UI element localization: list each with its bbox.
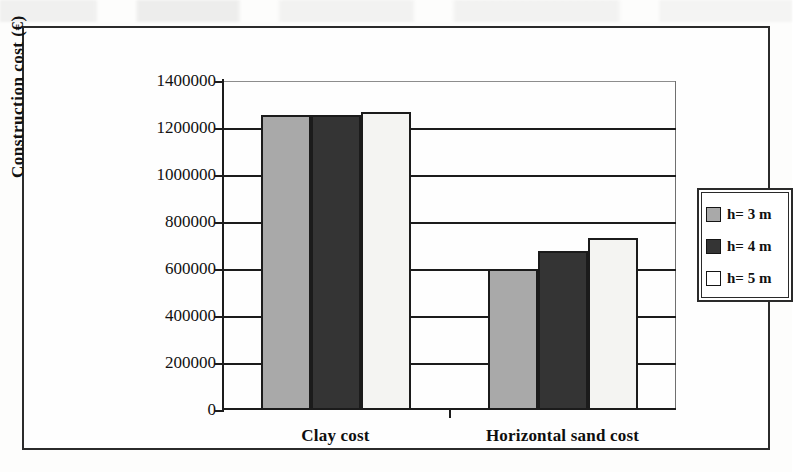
plot-area: [222, 81, 676, 410]
chart-legend: h= 3 m h= 4 m h= 5 m: [697, 188, 793, 302]
bar-clay-cost-5m: [361, 112, 411, 410]
legend-item-h3: h= 3 m: [706, 198, 785, 230]
y-axis-title: Construction cost (€): [8, 0, 28, 178]
bar-clay-cost-3m: [261, 115, 311, 410]
category-label: Clay cost: [301, 426, 369, 446]
category-label: Horizontal sand cost: [486, 426, 639, 446]
legend-swatch-icon-h4: [706, 239, 721, 254]
x-axis-category-labels: Clay costHorizontal sand cost: [222, 426, 676, 456]
scan-artifact-strip: [0, 0, 792, 22]
y-axis-tick-label: 1000000: [157, 165, 217, 185]
y-axis-tick: [215, 316, 222, 318]
bar-clay-cost-4m: [311, 115, 361, 410]
legend-item-h4: h= 4 m: [706, 230, 785, 262]
y-axis-tick-label: 200000: [165, 353, 216, 373]
legend-swatch-icon-h5: [706, 271, 721, 286]
y-axis-tick: [215, 363, 222, 365]
y-axis-tick-label: 400000: [165, 306, 216, 326]
y-axis-tick: [215, 128, 222, 130]
y-axis-tick-label: 600000: [165, 259, 216, 279]
y-axis-tick-labels: 1400000120000010000008000006000004000002…: [84, 72, 216, 420]
y-axis-tick-label: 800000: [165, 212, 216, 232]
legend-swatch-icon-h3: [706, 207, 721, 222]
bar-series-container: [222, 81, 676, 410]
legend-label-h4: h= 4 m: [727, 238, 771, 255]
bar-horizontal-sand-cost-3m: [488, 269, 538, 410]
y-axis-tick: [215, 222, 222, 224]
y-axis-tick: [215, 410, 222, 412]
chart-frame: Construction cost (€) 140000012000001000…: [22, 26, 770, 450]
category-tick: [449, 410, 451, 418]
legend-item-h5: h= 5 m: [706, 262, 785, 294]
legend-label-h3: h= 3 m: [727, 206, 771, 223]
y-axis-tick: [215, 81, 222, 83]
y-axis-tick: [215, 175, 222, 177]
legend-label-h5: h= 5 m: [727, 270, 771, 287]
y-axis-tick-label: 1400000: [157, 71, 217, 91]
y-axis-tick-label: 1200000: [157, 118, 217, 138]
bar-horizontal-sand-cost-4m: [538, 251, 588, 410]
bar-horizontal-sand-cost-5m: [588, 238, 638, 410]
y-axis-tick: [215, 269, 222, 271]
